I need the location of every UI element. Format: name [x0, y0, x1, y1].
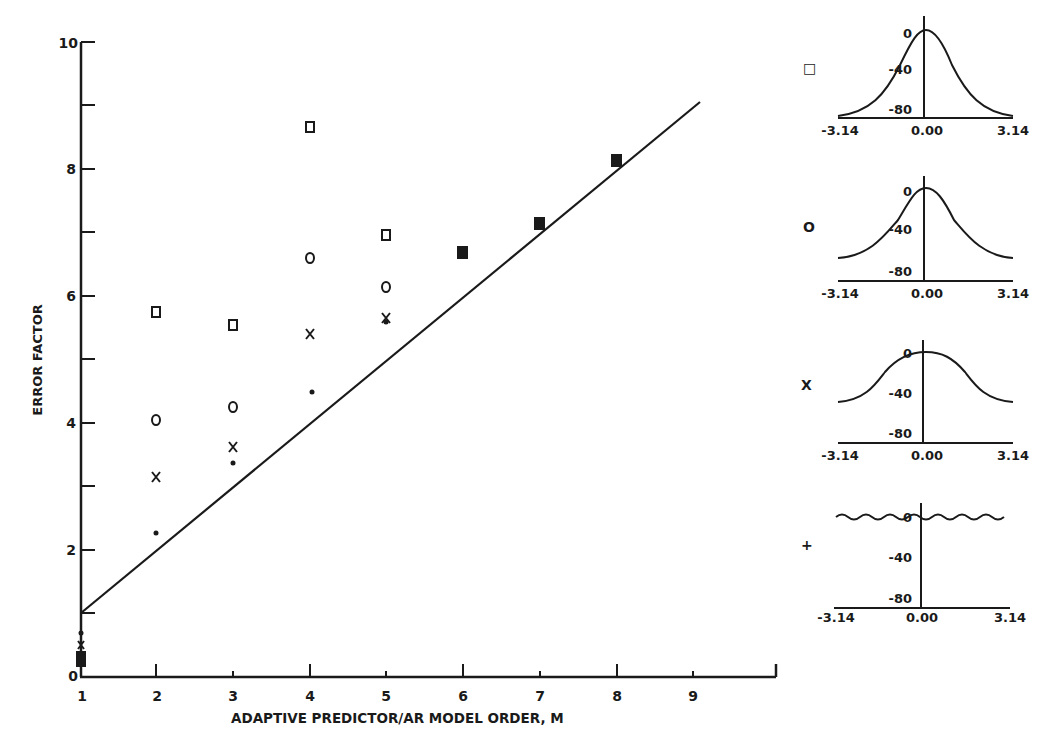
inset-spectrum-circle: O 0 -40 -80 -3.14 0.00 3.14 — [803, 176, 1029, 301]
svg-text:5: 5 — [381, 688, 391, 704]
svg-text:-40: -40 — [889, 62, 913, 77]
svg-text:0: 0 — [903, 510, 912, 525]
svg-text:0.00: 0.00 — [911, 448, 943, 463]
svg-text:-80: -80 — [889, 426, 913, 441]
svg-text:6: 6 — [458, 688, 468, 704]
svg-text:-3.14: -3.14 — [821, 123, 858, 138]
svg-text:0.00: 0.00 — [911, 286, 943, 301]
x-tick-labels: 1 2 3 4 5 6 7 8 9 — [77, 688, 698, 704]
inset-spectrum-square: □ 0 -40 -80 -3.14 0.00 3.14 — [803, 16, 1029, 138]
reference-line — [81, 102, 700, 613]
axes — [80, 42, 776, 677]
svg-text:0: 0 — [68, 668, 78, 684]
y-tick-labels: 0 2 4 6 8 10 — [59, 35, 79, 684]
svg-text:4: 4 — [66, 415, 76, 431]
svg-text:-3.14: -3.14 — [821, 286, 858, 301]
main-scatter-chart: 0 2 4 6 8 10 1 2 3 4 5 6 7 8 9 ADAPTIVE … — [0, 0, 1055, 753]
svg-text:8: 8 — [66, 161, 76, 177]
svg-text:-40: -40 — [889, 222, 913, 237]
series-square — [77, 122, 621, 666]
inset-spectrum-cross: X 0 -40 -80 -3.14 0.00 3.14 — [801, 340, 1029, 463]
svg-text:2: 2 — [152, 688, 162, 704]
x-axis-label: ADAPTIVE PREDICTOR/AR MODEL ORDER, M — [231, 710, 564, 726]
svg-text:-40: -40 — [889, 550, 913, 565]
inset-marker-cross: X — [801, 377, 812, 393]
svg-text:-80: -80 — [889, 102, 913, 117]
inset-marker-plus: + — [801, 537, 813, 553]
series-cross — [78, 313, 390, 649]
inset-spectrum-plus: + 0 -40 -80 -3.14 0.00 3.14 — [801, 503, 1026, 625]
svg-text:9: 9 — [688, 688, 698, 704]
svg-text:3.14: 3.14 — [997, 448, 1029, 463]
svg-text:0: 0 — [903, 26, 912, 41]
svg-text:3.14: 3.14 — [997, 123, 1029, 138]
svg-text:0: 0 — [903, 346, 912, 361]
svg-text:3.14: 3.14 — [997, 286, 1029, 301]
series-plus — [79, 320, 389, 636]
svg-text:0.00: 0.00 — [911, 123, 943, 138]
svg-text:10: 10 — [59, 35, 79, 51]
svg-text:2: 2 — [66, 542, 76, 558]
y-ticks — [81, 42, 95, 613]
svg-text:3: 3 — [228, 688, 238, 704]
svg-text:0.00: 0.00 — [906, 610, 938, 625]
svg-text:-80: -80 — [889, 264, 913, 279]
svg-text:0: 0 — [903, 184, 912, 199]
svg-text:4: 4 — [305, 688, 315, 704]
svg-text:8: 8 — [612, 688, 622, 704]
y-axis-label: ERROR FACTOR — [30, 304, 45, 415]
inset-marker-square: □ — [803, 60, 816, 76]
svg-text:-80: -80 — [889, 591, 913, 606]
svg-text:1: 1 — [77, 688, 87, 704]
series-circle — [152, 253, 390, 425]
x-ticks — [156, 664, 693, 677]
svg-text:-40: -40 — [889, 386, 913, 401]
svg-text:-3.14: -3.14 — [821, 448, 858, 463]
svg-text:3.14: 3.14 — [994, 610, 1026, 625]
inset-marker-circle: O — [803, 219, 815, 235]
svg-text:-3.14: -3.14 — [817, 610, 854, 625]
svg-text:6: 6 — [66, 288, 76, 304]
svg-text:7: 7 — [535, 688, 545, 704]
